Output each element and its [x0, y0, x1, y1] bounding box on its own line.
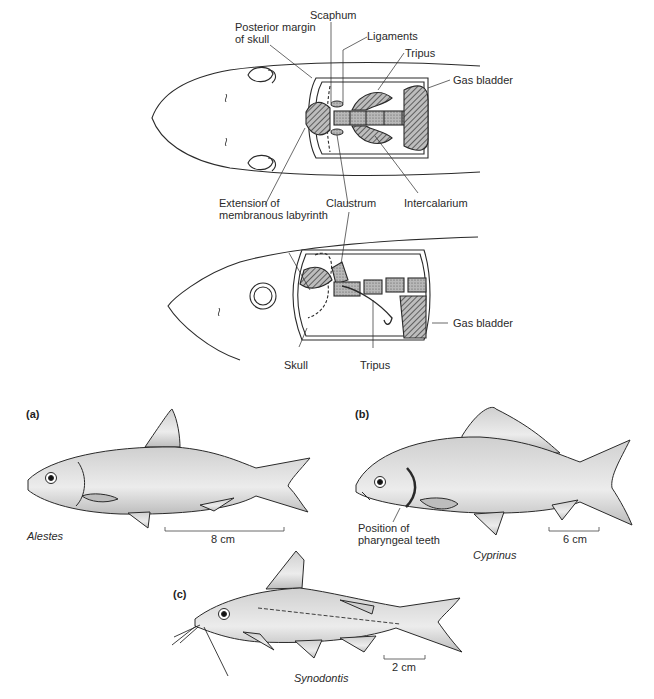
annotation-pharyngeal-line2: pharyngeal teeth — [358, 534, 440, 547]
fish-synodontis — [195, 551, 462, 658]
species-name-cyprinus: Cyprinus — [473, 549, 516, 562]
panel-tag-a: (a) — [26, 408, 39, 420]
fish-cyprinus — [356, 407, 632, 535]
weberian-dorsal-diagram — [152, 63, 480, 176]
species-name-synodontis: Synodontis — [294, 672, 348, 685]
label-scaphum: Scaphum — [310, 9, 356, 22]
weberian-lateral-diagram — [168, 237, 478, 360]
panel-tag-c: (c) — [173, 588, 186, 600]
fish-alestes — [28, 409, 310, 528]
label-tripus-dorsal: Tripus — [405, 47, 435, 60]
label-intercalarium: Intercalarium — [404, 197, 468, 210]
figure-drawing — [0, 0, 654, 699]
label-extension-line2: membranous labyrinth — [219, 209, 328, 222]
scale-bar-label-b: 6 cm — [563, 533, 587, 546]
label-claustrum: Claustrum — [326, 197, 376, 210]
label-ligaments: Ligaments — [367, 30, 418, 43]
label-gas-bladder-lateral: Gas bladder — [453, 317, 513, 330]
label-gas-bladder-dorsal: Gas bladder — [453, 74, 513, 87]
scale-bar-label-a: 8 cm — [211, 533, 235, 546]
label-skull: Skull — [284, 359, 308, 372]
label-tripus-lateral: Tripus — [360, 359, 390, 372]
species-name-alestes: Alestes — [27, 530, 63, 543]
panel-tag-b: (b) — [355, 408, 369, 420]
scale-bar-label-c: 2 cm — [392, 661, 416, 674]
label-posterior-margin-line2: of skull — [235, 33, 269, 46]
